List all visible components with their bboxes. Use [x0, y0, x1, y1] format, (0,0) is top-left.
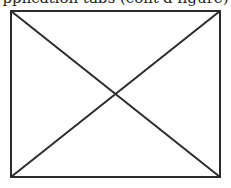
figure-caption: pplication tabs (cont'd figure)	[0, 0, 231, 6]
image-placeholder	[10, 10, 221, 178]
placeholder-x-icon	[10, 10, 221, 178]
